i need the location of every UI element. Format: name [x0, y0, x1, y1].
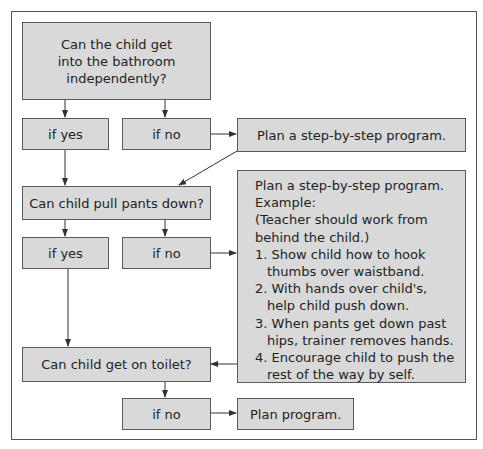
node-pants-question: Can child pull pants down? [22, 186, 211, 220]
plan2-title: Plan a step-by-step program. [255, 177, 457, 194]
plan2-step: 4. Encourage child to push the rest of t… [255, 349, 457, 383]
plan2-step: 1. Show child how to hook thumbs over wa… [255, 246, 457, 280]
node-plan-pants-program: Plan a step-by-step program. Example: (T… [237, 170, 466, 383]
plan2-step: 2. With hands over child's, help child p… [255, 280, 457, 314]
node-q1-if-yes: if yes [22, 118, 109, 150]
node-q1-if-no: if no [122, 118, 211, 150]
plan1-label: Plan a step-by-step program. [257, 127, 446, 144]
q1-line-2: into the bathroom [58, 53, 176, 70]
q3-label: Can child get on toilet? [41, 356, 191, 373]
q1-line-3: independently? [66, 70, 166, 87]
q1-yes-label: if yes [48, 126, 83, 143]
plan2-step: 3. When pants get down past hips, traine… [255, 315, 457, 349]
q2-no-label: if no [152, 245, 181, 262]
node-plan-step-program: Plan a step-by-step program. [237, 118, 466, 152]
q1-no-label: if no [152, 126, 181, 143]
node-plan-program: Plan program. [237, 398, 354, 430]
plan3-label: Plan program. [250, 406, 341, 423]
q3-no-label: if no [152, 406, 181, 423]
q2-yes-label: if yes [48, 245, 83, 262]
plan2-note-2: behind the child.) [255, 229, 457, 246]
node-q2-if-yes: if yes [22, 237, 109, 269]
node-q2-if-no: if no [122, 237, 211, 269]
plan2-steps: 1. Show child how to hook thumbs over wa… [255, 246, 457, 384]
node-toilet-question: Can child get on toilet? [22, 347, 211, 382]
node-bathroom-question: Can the child get into the bathroom inde… [22, 22, 211, 100]
q2-label: Can child pull pants down? [29, 195, 204, 212]
node-q3-if-no: if no [122, 398, 211, 430]
plan2-note-1: (Teacher should work from [255, 211, 457, 228]
plan2-example: Example: [255, 194, 457, 211]
q1-line-1: Can the child get [61, 36, 172, 53]
